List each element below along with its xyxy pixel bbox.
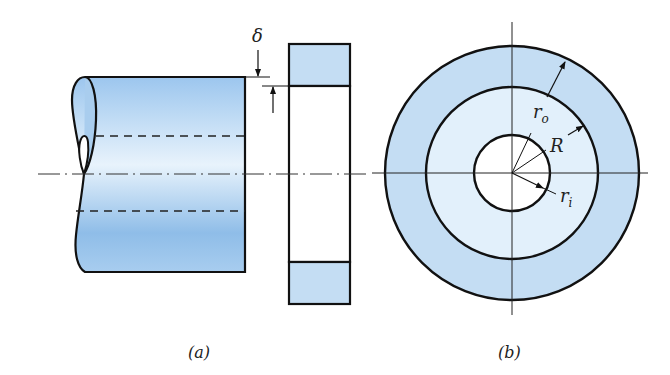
- interference-dimension: δ: [245, 25, 289, 113]
- caption-a: (a): [188, 343, 210, 362]
- ring-top-block: [289, 44, 350, 86]
- caption-b: (b): [498, 343, 521, 362]
- delta-label: δ: [252, 25, 263, 46]
- interface-radius-label: R: [549, 135, 564, 156]
- ring-bottom-block: [289, 262, 350, 304]
- concentric-section: [372, 22, 648, 315]
- shrink-fit-diagram: δ (a) ro R ri (b): [0, 0, 670, 375]
